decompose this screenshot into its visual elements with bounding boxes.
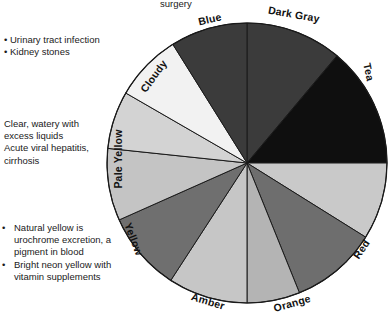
wedge-label-pale-yellow: Pale Yellow [112, 129, 124, 188]
pie-slices [107, 23, 387, 303]
pie-svg [0, 0, 392, 320]
urine-color-wheel-figure: surgery •Urinary tract infection •Kidney… [0, 0, 392, 320]
pie-chart [0, 0, 392, 320]
